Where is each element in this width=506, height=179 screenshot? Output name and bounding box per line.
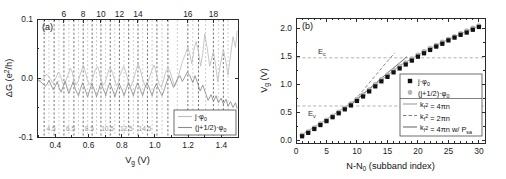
x-tick-label: 0.4: [49, 140, 61, 150]
x-tick-label: 1.0: [149, 140, 161, 150]
data-point-j: [477, 25, 481, 29]
panel-b-ylabel: Vg (V): [259, 68, 271, 93]
top-tick-label: 12: [115, 9, 125, 19]
inner-gray-label: 10.5: [101, 125, 114, 132]
panel-b-xlabel: N-N0 (subband index): [346, 161, 434, 172]
panel-a-tag: (a): [42, 22, 53, 32]
inner-gray-label: 8.5: [85, 125, 94, 132]
data-point-j: [379, 79, 383, 83]
inner-gray-label: 12.5: [120, 125, 133, 132]
x-tick-label: 0.6: [83, 140, 95, 150]
annotation-ev: Ev: [308, 109, 316, 119]
data-point-j: [410, 59, 414, 63]
data-point-j: [434, 44, 438, 48]
legend-marker-circle: [408, 90, 413, 95]
data-point-j: [404, 62, 408, 66]
x-tick-label: 1.2: [182, 140, 194, 150]
annotation-ec: Ec: [318, 47, 326, 57]
data-point-j: [312, 127, 316, 131]
legend-label: (j+1/2)·φ0: [195, 123, 226, 133]
data-point-j: [355, 99, 359, 103]
x-tick-label: 0: [294, 146, 299, 156]
y-tick-label: 1.0: [280, 79, 292, 89]
x-tick-label: 15: [383, 146, 393, 156]
top-tick-label: 14: [133, 9, 143, 19]
y-tick-label: 2.0: [280, 23, 292, 33]
top-tick-label: 8: [81, 9, 86, 19]
y-tick-label: 0.5: [280, 107, 292, 117]
data-point-j: [391, 70, 395, 74]
data-point-j: [452, 36, 456, 40]
inner-gray-label: 6.5: [66, 125, 75, 132]
data-point-j: [440, 42, 444, 46]
data-point-j: [459, 33, 463, 37]
figure-container: 0.40.60.81.01.21.4-0.10.00.1681012141618…: [0, 0, 506, 179]
top-tick-label: 16: [183, 9, 193, 19]
panel-a-xlabel: Vg (V): [125, 155, 150, 167]
data-point-j: [361, 94, 365, 98]
y-tick-label: 0.0: [21, 73, 33, 83]
legend-marker-square: [408, 79, 412, 83]
x-tick-label: 5: [324, 146, 329, 156]
legend-label: kf2 = 4πn: [420, 100, 450, 111]
y-tick-label: 0.1: [21, 14, 33, 24]
y-tick-label: -0.1: [19, 132, 34, 142]
data-point-j: [349, 103, 353, 107]
trace-j-phi0: [38, 31, 237, 88]
x-tick-label: 1.4: [216, 140, 228, 150]
panel-b-svg: 0510152025300.00.51.01.52.0EcEv(b)N-N0 (…: [253, 0, 506, 179]
model-curve-4pin-psa: [351, 57, 407, 105]
panel-a-svg: 0.40.60.81.01.21.4-0.10.00.1681012141618…: [0, 0, 253, 179]
x-tick-label: 30: [474, 146, 484, 156]
top-tick-label: 18: [209, 9, 219, 19]
x-tick-label: 10: [352, 146, 362, 156]
data-point-j: [385, 75, 389, 79]
data-point-j: [446, 38, 450, 42]
y-tick-label: 0.0: [280, 135, 292, 145]
inner-gray-label: 14.5: [139, 125, 152, 132]
y-tick-label: 1.5: [280, 51, 292, 61]
data-point-j: [416, 55, 420, 59]
legend-label: kf2 = 2πn: [420, 112, 450, 123]
panel-a-ylabel: ΔG (e2/h): [3, 59, 14, 97]
data-point-j: [471, 28, 475, 32]
data-point-j: [373, 84, 377, 88]
x-tick-label: 0.8: [116, 140, 128, 150]
data-point-j: [324, 119, 328, 123]
panel-b: 0510152025300.00.51.01.52.0EcEv(b)N-N0 (…: [253, 0, 506, 179]
data-point-j: [367, 89, 371, 93]
data-point-j: [306, 131, 310, 135]
top-tick-label: 6: [62, 9, 67, 19]
data-point-j: [330, 115, 334, 119]
data-point-j: [343, 107, 347, 111]
data-point-j: [337, 111, 341, 115]
legend-label: (j+1/2)·φ0: [418, 89, 449, 99]
data-point-j: [300, 134, 304, 138]
inner-gray-label: 4.5: [47, 125, 56, 132]
panel-a: 0.40.60.81.01.21.4-0.10.00.1681012141618…: [0, 0, 253, 179]
legend-label: kf2 = 4πn w/ Psa: [420, 123, 472, 135]
x-tick-label: 20: [413, 146, 423, 156]
top-tick-label: 10: [96, 9, 106, 19]
x-tick-label: 25: [444, 146, 454, 156]
panel-b-tag: (b): [302, 21, 313, 31]
data-point-j: [422, 51, 426, 55]
data-point-j: [318, 123, 322, 127]
data-point-j: [465, 30, 469, 34]
data-point-j: [428, 48, 432, 52]
trace-j-half-phi0: [38, 72, 237, 109]
data-point-j: [398, 66, 402, 70]
